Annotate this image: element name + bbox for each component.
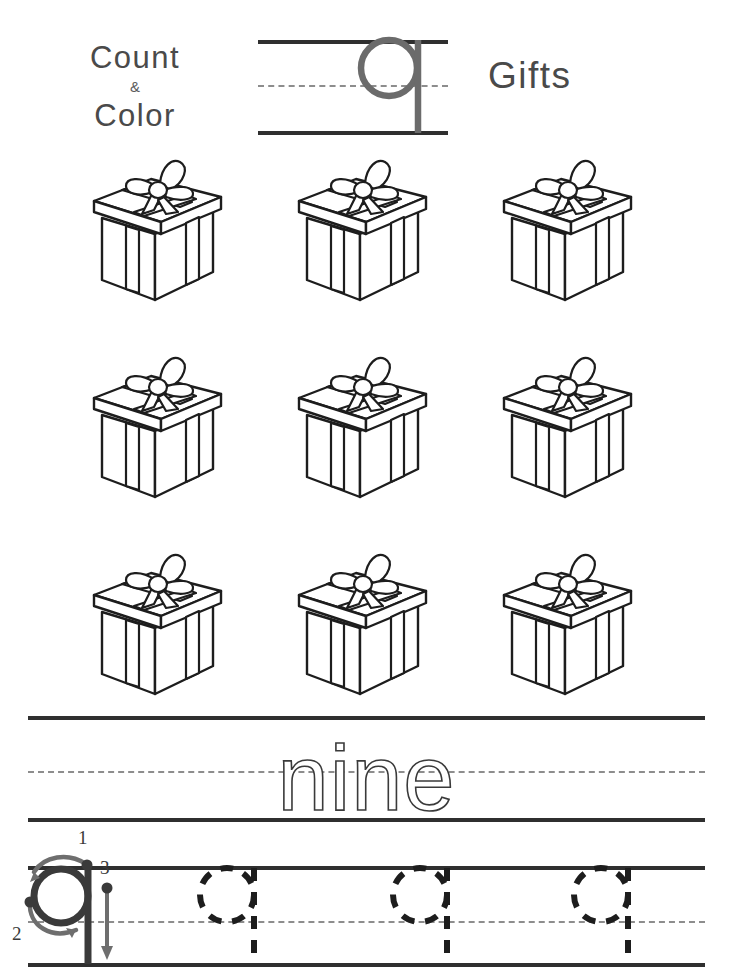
subject-noun-gifts: Gifts [488,55,572,97]
header-letter-guide [258,30,448,138]
header-letter-q [353,34,449,138]
gift-box-2 [287,152,447,302]
gift-box-7 [82,546,242,696]
trace-letter-q-2 [393,868,447,963]
stroke-order-model-q: 1 2 3 [6,828,136,978]
stroke-2-startdot [25,897,36,908]
gift-box-icon [287,546,447,696]
stroke-3-number: 3 [100,857,110,878]
trace-letter-q-3 [574,868,628,963]
word-top-line [28,716,705,720]
letter-tracing-line: 1 2 3 [28,862,705,967]
number-word-line: nine [28,712,705,822]
gift-grid [0,152,735,697]
number-word-nine: nine [28,736,705,822]
gift-box-icon [287,349,447,499]
gift-box-icon [287,152,447,302]
title-color: Color [60,100,210,131]
stroke-1-number: 1 [78,828,88,848]
stroke-3-arrowhead [101,946,113,960]
gift-box-icon [82,349,242,499]
gift-box-icon [492,152,652,302]
worksheet-page: Count & Color Gifts [0,0,735,980]
gift-box-icon [82,152,242,302]
gift-box-icon [492,546,652,696]
stroke-1-startdot [82,860,93,871]
gift-box-icon [492,349,652,499]
worksheet-header: Count & Color Gifts [0,0,735,150]
stroke-3-startdot [102,883,113,894]
trace-letter-q-1 [200,868,254,963]
title-ampersand: & [60,78,210,95]
title-count: Count [60,42,210,73]
gift-box-4 [82,349,242,499]
gift-box-6 [492,349,652,499]
gift-box-icon [82,546,242,696]
gift-box-5 [287,349,447,499]
gift-box-9 [492,546,652,696]
gift-box-1 [82,152,242,302]
gift-box-3 [492,152,652,302]
stroke-2-number: 2 [12,923,22,944]
gift-box-8 [287,546,447,696]
